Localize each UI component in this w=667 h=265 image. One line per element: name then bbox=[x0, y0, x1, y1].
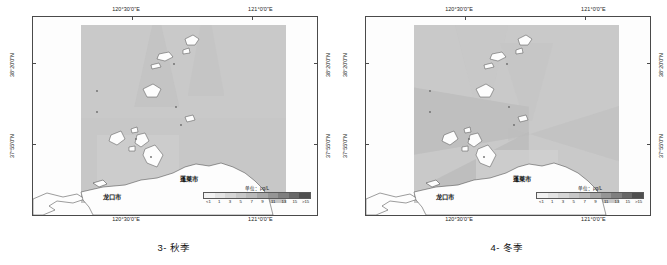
legend-swatch bbox=[601, 193, 612, 198]
legend-colorbar bbox=[536, 192, 644, 199]
lon-label-bottom-2: 121°0'0"E bbox=[581, 216, 606, 222]
legend-tick: <1 bbox=[203, 199, 214, 204]
legend-tick: 11 bbox=[268, 199, 279, 204]
legend-swatch bbox=[278, 193, 289, 198]
legend-tick: 5 bbox=[235, 199, 246, 204]
legend-swatch bbox=[569, 193, 580, 198]
legend-swatch bbox=[558, 193, 569, 198]
legend-title: 单位：μg/L bbox=[203, 185, 311, 191]
legend-winter: 单位：μg/L <1 1 3 5 bbox=[536, 185, 644, 204]
lon-label-top-2: 121°0'0"E bbox=[581, 6, 606, 12]
legend-swatch bbox=[299, 193, 310, 198]
lat-label-right-2: 37°55'0"N bbox=[325, 134, 331, 158]
lon-axis-bottom-winter: 120°30'0"E 121°0'0"E bbox=[347, 216, 667, 228]
map-frame-winter: 蓬莱市 龙口市 单位：μg/L <1 1 bbox=[365, 16, 651, 216]
legend-swatch bbox=[225, 193, 236, 198]
legend-tick: >15 bbox=[633, 199, 644, 204]
lat-label-left-2: 37°55'0"N bbox=[342, 134, 348, 158]
legend-tick: 15 bbox=[622, 199, 633, 204]
legend-title: 单位：μg/L bbox=[536, 185, 644, 191]
lon-label-top-2: 121°0'0"E bbox=[248, 6, 273, 12]
lon-label-bottom-1: 120°30'0"E bbox=[112, 216, 140, 222]
legend-tick: <1 bbox=[536, 199, 547, 204]
city-label-longkou: 龙口市 bbox=[103, 192, 121, 201]
city-label-penglai: 蓬莱市 bbox=[513, 174, 531, 183]
legend-tick: 11 bbox=[601, 199, 612, 204]
lat-label-right-2: 37°55'0"N bbox=[658, 134, 664, 158]
legend-tick: 1 bbox=[214, 199, 225, 204]
lon-label-bottom-1: 120°30'0"E bbox=[445, 216, 473, 222]
legend-swatch bbox=[622, 193, 633, 198]
legend-swatch bbox=[611, 193, 622, 198]
legend-swatch bbox=[268, 193, 279, 198]
lon-label-top-1: 120°30'0"E bbox=[112, 6, 140, 12]
lon-axis-bottom-autumn: 120°30'0"E 121°0'0"E bbox=[14, 216, 334, 228]
legend-tick: >15 bbox=[300, 199, 311, 204]
legend-autumn: 单位：μg/L <1 1 3 5 bbox=[203, 185, 311, 204]
legend-swatch bbox=[632, 193, 643, 198]
legend-tick: 1 bbox=[547, 199, 558, 204]
legend-tick: 9 bbox=[590, 199, 601, 204]
panel-caption-autumn: 3- 秋季 bbox=[14, 240, 334, 254]
legend-tick: 3 bbox=[225, 199, 236, 204]
lat-label-right-1: 38°20'0"N bbox=[325, 53, 331, 77]
legend-tick-labels: <1 1 3 5 7 9 11 13 15 >15 bbox=[203, 199, 311, 204]
legend-swatch bbox=[289, 193, 300, 198]
city-label-penglai: 蓬莱市 bbox=[180, 174, 198, 183]
legend-swatch bbox=[215, 193, 226, 198]
legend-swatch bbox=[204, 193, 215, 198]
map-panel-autumn: 120°30'0"E 121°0'0"E 38°20'0"N 37°55'0"N… bbox=[14, 0, 334, 232]
panel-caption-winter: 4- 冬季 bbox=[347, 240, 667, 254]
legend-tick: 13 bbox=[279, 199, 290, 204]
legend-swatch bbox=[257, 193, 268, 198]
legend-swatch bbox=[236, 193, 247, 198]
lat-label-left-1: 38°20'0"N bbox=[9, 53, 15, 77]
legend-tick: 9 bbox=[257, 199, 268, 204]
legend-swatch bbox=[590, 193, 601, 198]
legend-swatch bbox=[246, 193, 257, 198]
lon-label-top-1: 120°30'0"E bbox=[445, 6, 473, 12]
map-panel-winter: 120°30'0"E 121°0'0"E 38°20'0"N 37°55'0"N… bbox=[347, 0, 667, 232]
legend-colorbar bbox=[203, 192, 311, 199]
lat-label-right-1: 38°20'0"N bbox=[658, 53, 664, 77]
lon-label-bottom-2: 121°0'0"E bbox=[248, 216, 273, 222]
figure-two-panel-maps: 120°30'0"E 121°0'0"E 38°20'0"N 37°55'0"N… bbox=[0, 0, 667, 265]
legend-swatch bbox=[548, 193, 559, 198]
map-frame-autumn: 蓬莱市 龙口市 单位：μg/L <1 bbox=[32, 16, 318, 216]
legend-tick: 3 bbox=[558, 199, 569, 204]
legend-swatch bbox=[579, 193, 590, 198]
legend-tick-labels: <1 1 3 5 7 9 11 13 15 >15 bbox=[536, 199, 644, 204]
legend-tick: 13 bbox=[612, 199, 623, 204]
lat-label-left-1: 38°20'0"N bbox=[342, 53, 348, 77]
city-label-longkou: 龙口市 bbox=[436, 192, 454, 201]
legend-tick: 15 bbox=[289, 199, 300, 204]
lat-label-left-2: 37°55'0"N bbox=[9, 134, 15, 158]
legend-tick: 7 bbox=[246, 199, 257, 204]
legend-tick: 5 bbox=[568, 199, 579, 204]
legend-swatch bbox=[537, 193, 548, 198]
legend-tick: 7 bbox=[579, 199, 590, 204]
